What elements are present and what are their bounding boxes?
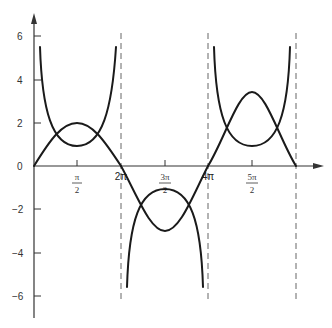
svg-text:3π: 3π [160,172,170,182]
x-tick-pi-half: π 2 [72,172,82,195]
reciprocal-curve-1 [40,47,116,146]
y-tick-0: 0 [17,161,23,172]
x-tick-5pi-half: 5π 2 [246,172,258,195]
y-tick-6: 6 [17,31,23,42]
curves [34,47,296,287]
reciprocal-curve-2 [127,189,203,287]
svg-text:2: 2 [75,185,80,195]
svg-text:2: 2 [250,185,255,195]
x-axis-arrow-icon [313,163,324,169]
svg-text:π: π [75,172,80,182]
y-tick-neg6: −6 [12,291,24,302]
chart: 6 4 2 0 −2 −4 −6 π 2 2π 3π 2 4π 5π 2 [0,0,332,328]
hump-curve-1 [34,123,121,166]
svg-text:5π: 5π [247,172,257,182]
x-ticks [77,160,252,166]
y-axis-arrow-icon [31,13,37,24]
y-tick-2: 2 [17,118,23,129]
y-tick-4: 4 [17,75,23,86]
axes [34,18,318,318]
y-tick-neg2: −2 [12,204,24,215]
y-tick-neg4: −4 [12,248,24,259]
hump-curve-3 [208,92,296,166]
x-tick-3pi-half: 3π 2 [159,172,171,195]
